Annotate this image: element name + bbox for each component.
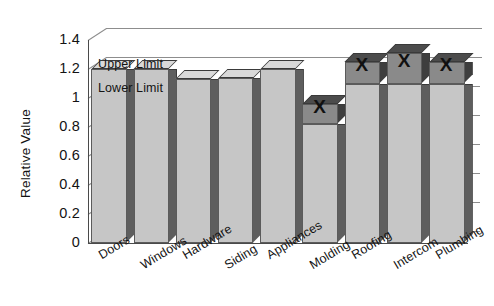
bar-front-face — [91, 69, 126, 243]
bar-front-face — [218, 78, 253, 243]
y-axis-tick-label: 0.8 — [30, 118, 80, 134]
y-axis-line — [88, 40, 89, 243]
bar-front-face — [176, 79, 211, 243]
bar-appliances[interactable] — [260, 40, 295, 243]
y-axis-tick-label: 0.4 — [30, 176, 80, 192]
y-axis-tick-label: 1.2 — [30, 60, 80, 76]
bar-plumbing[interactable]: X — [429, 40, 464, 243]
y-axis-tick-label: 0 — [30, 234, 80, 250]
bar-segment-within-limit — [387, 84, 422, 244]
bar-front-face — [429, 84, 464, 244]
bar-intercom[interactable]: X — [387, 40, 422, 243]
relative-value-bar-chart: Relative Value 1.41.210.80.60.40.20 XXXX… — [0, 0, 494, 306]
bar-segment-within-limit — [91, 69, 126, 243]
x-axis-tick-label-siding: Siding — [222, 242, 260, 272]
y-axis-tick-label: 1 — [30, 89, 80, 105]
y-axis-tick-label: 1.4 — [30, 31, 80, 47]
out-of-limit-x-marker: X — [440, 55, 453, 74]
out-of-limit-x-marker: X — [355, 55, 368, 74]
bar-molding[interactable]: X — [302, 40, 337, 243]
bar-segment-within-limit — [429, 84, 464, 244]
out-of-limit-x-marker: X — [398, 51, 411, 70]
bar-segment-within-limit — [260, 69, 295, 243]
bar-siding[interactable] — [218, 40, 253, 243]
upper-limit-label: Upper Limit — [98, 57, 163, 71]
bar-segment-within-limit — [345, 84, 380, 244]
bar-roofing[interactable]: X — [345, 40, 380, 243]
y-axis-depth-tick — [88, 28, 107, 41]
y-axis-tick-label: 0.6 — [30, 147, 80, 163]
bar-segment-within-limit — [218, 78, 253, 243]
bar-hardware[interactable] — [176, 40, 211, 243]
lower-limit-label: Lower Limit — [98, 81, 163, 95]
bar-top-face — [260, 60, 304, 69]
y-axis-tick-label: 0.2 — [30, 205, 80, 221]
bar-front-face — [134, 69, 169, 243]
bar-front-face — [345, 84, 380, 244]
bar-side-face — [464, 62, 473, 84]
bar-top-face — [176, 70, 220, 79]
bar-segment-within-limit — [176, 79, 211, 243]
bar-segment-within-limit — [134, 69, 169, 243]
bar-side-face — [464, 84, 473, 244]
chart-gridline — [106, 28, 482, 29]
bar-top-face — [218, 69, 262, 78]
bar-front-face — [260, 69, 295, 243]
out-of-limit-x-marker: X — [313, 97, 326, 116]
bar-front-face — [387, 84, 422, 244]
